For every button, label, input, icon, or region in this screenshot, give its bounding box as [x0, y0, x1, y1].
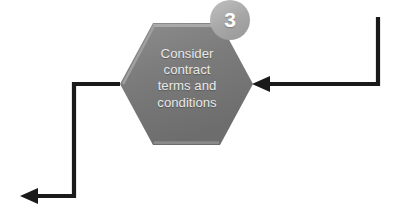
outgoing-arrowhead-icon: [20, 188, 38, 204]
incoming-connector-line: [268, 17, 378, 84]
outgoing-connector-line: [34, 84, 120, 196]
incoming-arrowhead-icon: [252, 76, 270, 92]
incoming-connector: [252, 17, 378, 92]
flowchart-diagram: Consider contract terms and conditions 3: [0, 0, 403, 218]
step-number-badge[interactable]: [210, 0, 250, 40]
flowchart-canvas: [0, 0, 403, 218]
badge-circle[interactable]: [210, 0, 250, 40]
hexagon-node[interactable]: [120, 23, 253, 145]
hexagon-shape[interactable]: [120, 23, 253, 145]
outgoing-connector: [20, 84, 120, 204]
